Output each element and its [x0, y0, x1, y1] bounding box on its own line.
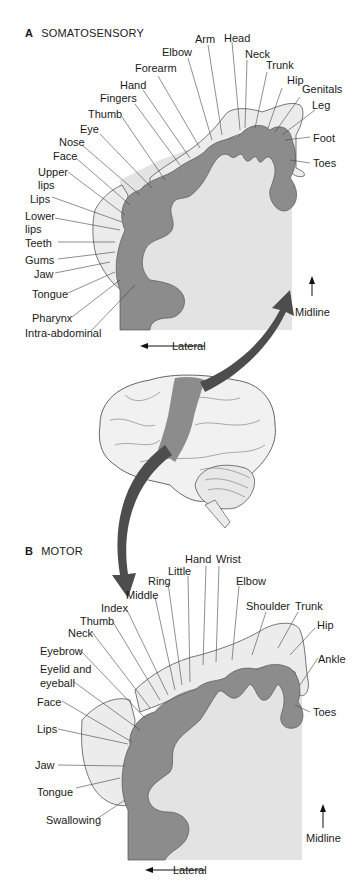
- label-lips-motor: Lips: [37, 723, 57, 735]
- label-gums: Gums: [25, 254, 54, 266]
- label-index: Index: [101, 602, 128, 614]
- label-arm: Arm: [195, 33, 215, 45]
- label-little: Little: [168, 565, 191, 577]
- lateral-label-b: Lateral: [173, 864, 207, 876]
- label-jaw: Jaw: [34, 268, 54, 280]
- label-face: Face: [53, 150, 77, 162]
- label-lower: Lower: [25, 210, 55, 222]
- label-eyeball: eyeball: [40, 677, 75, 689]
- label-eyelid-and: Eyelid and: [40, 663, 91, 675]
- label-trunk: Trunk: [266, 59, 294, 71]
- panel-b-letter: B: [25, 545, 33, 557]
- label-ankle: Ankle: [318, 653, 346, 665]
- label-tongue-motor: Tongue: [37, 786, 73, 798]
- label-foot: Foot: [313, 132, 335, 144]
- label-wrist: Wrist: [216, 553, 241, 565]
- panel-b-title: BMOTOR: [25, 545, 83, 557]
- label-hip-motor: Hip: [317, 619, 334, 631]
- label-toes: Toes: [313, 157, 336, 169]
- label-genitals: Genitals: [302, 83, 342, 95]
- label-head: Head: [224, 32, 250, 44]
- midline-label-b: Midline: [306, 832, 341, 844]
- label-fingers: Fingers: [100, 92, 137, 104]
- label-upper-lips: lips: [38, 179, 55, 191]
- label-hand: Hand: [120, 79, 146, 91]
- label-face-motor: Face: [37, 696, 61, 708]
- label-lower-lips: lips: [25, 223, 42, 235]
- label-trunk-motor: Trunk: [295, 600, 323, 612]
- label-teeth: Teeth: [25, 237, 52, 249]
- label-eye: Eye: [80, 123, 99, 135]
- label-shoulder: Shoulder: [246, 600, 290, 612]
- label-jaw-motor: Jaw: [35, 759, 55, 771]
- label-lips: Lips: [30, 193, 50, 205]
- lateral-label-a: Lateral: [172, 340, 206, 352]
- label-leg: Leg: [312, 99, 330, 111]
- label-elbow-motor: Elbow: [236, 575, 266, 587]
- label-intra-abdominal: Intra-abdominal: [25, 327, 101, 339]
- midline-label-a: Midline: [295, 306, 330, 318]
- label-thumb-motor: Thumb: [80, 615, 114, 627]
- label-toes-motor: Toes: [313, 706, 336, 718]
- label-pharynx: Pharynx: [32, 312, 72, 324]
- label-upper: Upper: [38, 166, 68, 178]
- label-swallowing: Swallowing: [46, 814, 101, 826]
- label-thumb: Thumb: [88, 108, 122, 120]
- label-ring: Ring: [148, 575, 171, 587]
- panel-a-title: ASOMATOSENSORY: [25, 27, 144, 39]
- label-forearm: Forearm: [135, 62, 177, 74]
- label-hand-motor: Hand: [185, 553, 211, 565]
- label-tongue: Tongue: [32, 288, 68, 300]
- label-neck-motor: Neck: [68, 627, 93, 639]
- label-elbow: Elbow: [162, 46, 192, 58]
- label-middle: Middle: [126, 589, 158, 601]
- label-eyebrow: Eyebrow: [40, 645, 83, 657]
- label-nose: Nose: [59, 136, 85, 148]
- panel-a-letter: A: [25, 27, 33, 39]
